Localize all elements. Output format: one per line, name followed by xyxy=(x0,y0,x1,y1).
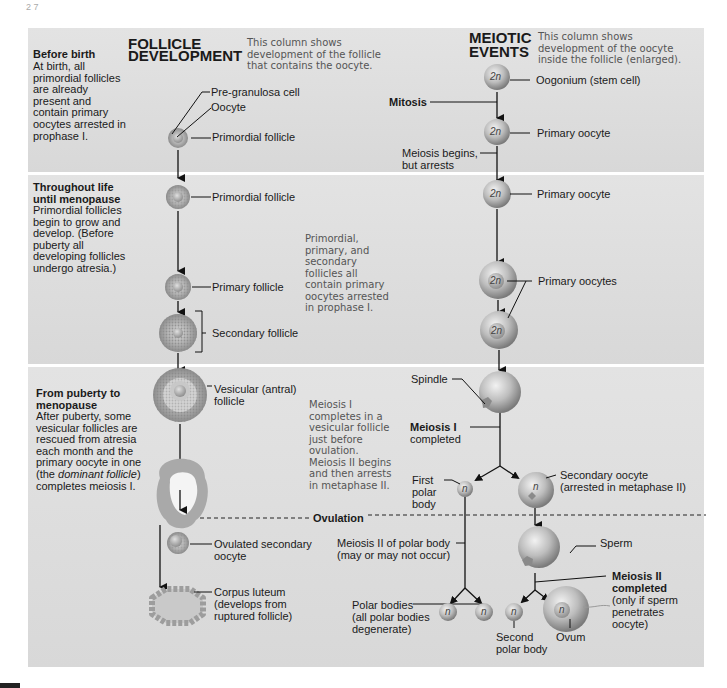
label-line: Second xyxy=(496,631,547,643)
stage3-heading-line: From puberty to xyxy=(36,388,120,400)
stage3-text: After puberty, some vesicular follicles … xyxy=(36,411,141,492)
label-first-polar-body: First polar body xyxy=(412,474,436,510)
stage3-note-line: in metaphase II. xyxy=(309,480,391,492)
stage3-note-line: and then arrests xyxy=(309,468,391,480)
label-primordial-follicle-2: Primordial follicle xyxy=(212,191,295,203)
follicle-column-note-1: This column shows xyxy=(247,37,342,49)
label-pre-granulosa-cell: Pre-granulosa cell xyxy=(211,86,300,98)
stage3-note-line: just before xyxy=(309,434,391,446)
label-line: penetrates xyxy=(612,606,678,618)
label-sperm: Sperm xyxy=(600,537,632,549)
stage2-note-line: in prophase I. xyxy=(305,302,389,314)
label-line: completed xyxy=(410,433,461,445)
ploidy-n-ovum: n xyxy=(559,604,565,616)
label-second-polar-body: Second polar body xyxy=(496,631,547,655)
stage3-text-line-italic: (the dominant follicle) xyxy=(36,469,141,481)
ploidy-2n-primary-4: 2n xyxy=(491,325,502,337)
follicle-column-note-3: that contains the oocyte. xyxy=(247,60,373,72)
label-polar-bodies: Polar bodies (all polar bodies degenerat… xyxy=(352,599,430,635)
italic-suffix: ) xyxy=(137,468,141,480)
label-mitosis: Mitosis xyxy=(389,96,427,108)
ploidy-2n-oogonium: 2n xyxy=(490,71,501,83)
stage3-note-line: completes in a xyxy=(309,411,391,423)
stage2-note-line: secondary xyxy=(305,256,389,268)
label-line: completed xyxy=(612,582,678,594)
label-line: oocyte xyxy=(214,550,312,562)
page-edge-tab xyxy=(0,683,20,688)
ploidy-n-first-polar: n xyxy=(462,483,468,495)
stage1-text-line: At birth, all xyxy=(33,61,126,73)
stage2-heading: Throughout life until menopause xyxy=(33,182,120,205)
stage2-text-line: undergo atresia.) xyxy=(33,263,125,275)
italic-prefix: (the xyxy=(36,468,58,480)
label-line: (only if sperm xyxy=(612,594,678,606)
label-meiosis-i-completed: Meiosis I completed xyxy=(410,421,461,445)
label-secondary-follicle: Secondary follicle xyxy=(212,327,298,339)
meiotic-column-note-1: This column shows xyxy=(538,31,633,43)
stage1-heading: Before birth xyxy=(33,49,95,61)
label-line: Ovulated secondary xyxy=(214,538,312,550)
page-number: 2 7 xyxy=(26,1,39,13)
label-line: Meiosis II xyxy=(612,570,678,582)
follicle-development-title-line2: DEVELOPMENT xyxy=(128,48,242,63)
label-spindle: Spindle xyxy=(411,373,448,385)
stage1-text: At birth, all primordial follicles are a… xyxy=(33,61,126,142)
label-corpus-luteum: Corpus luteum (develops from ruptured fo… xyxy=(214,586,292,622)
stage2-text: Primordial follicles begin to grow and d… xyxy=(33,205,125,275)
follicle-column-note-2: development of the follicle xyxy=(247,49,381,61)
label-oocyte: Oocyte xyxy=(211,101,246,113)
ploidy-2n-primary-3: 2n xyxy=(490,275,501,287)
label-oogonium: Oogonium (stem cell) xyxy=(536,74,641,86)
stage1-text-line: prophase I. xyxy=(33,131,126,143)
stage2-note-line: contain primary xyxy=(305,279,389,291)
label-line: but arrests xyxy=(402,159,478,171)
label-primary-oocytes: Primary oocytes xyxy=(538,275,617,287)
stage2-note: Primordial, primary, and secondary folli… xyxy=(305,233,389,314)
stage3-text-line: completes meiosis I. xyxy=(36,481,141,493)
meiotic-column-note-2: development of the oocyte xyxy=(538,43,673,55)
label-line: (may or may not occur) xyxy=(337,549,450,561)
stage3-heading: From puberty to menopause xyxy=(36,388,120,411)
label-primordial-follicle-1: Primordial follicle xyxy=(212,131,295,143)
stage3-note-line: vesicular follicle xyxy=(309,422,391,434)
label-ovulated-secondary-oocyte: Ovulated secondary oocyte xyxy=(214,538,312,562)
label-line: Corpus luteum xyxy=(214,586,292,598)
ploidy-2n-primary-1: 2n xyxy=(490,126,501,138)
label-vesicular-follicle: Vesicular (antral) follicle xyxy=(214,383,297,407)
stage3-note-line: Meiosis I xyxy=(309,399,391,411)
label-line: (develops from xyxy=(214,598,292,610)
stage2-text-line: Primordial follicles xyxy=(33,205,125,217)
meiotic-column-note-3: inside the follicle (enlarged). xyxy=(538,54,681,66)
stage2-note-line: oocytes arrested xyxy=(305,291,389,303)
meiotic-events-title-line2: EVENTS xyxy=(469,44,529,59)
stage3-text-line: After puberty, some xyxy=(36,411,141,423)
label-line: polar body xyxy=(496,643,547,655)
dominant-follicle-term: dominant follicle xyxy=(58,468,137,480)
label-meiosis-begins: Meiosis begins, but arrests xyxy=(402,147,478,171)
stage2-note-line: follicles all xyxy=(305,268,389,280)
label-line: degenerate) xyxy=(352,623,430,635)
label-ovum: Ovum xyxy=(556,631,585,643)
label-line: Meiosis I xyxy=(410,421,461,433)
label-meiosis-ii-completed: Meiosis II completed (only if sperm pene… xyxy=(612,570,678,630)
label-line: Secondary oocyte xyxy=(560,469,686,481)
label-line: body xyxy=(412,498,436,510)
label-meiosis-ii-polar-body: Meiosis II of polar body (may or may not… xyxy=(337,537,450,561)
stage3-note-line: Meiosis II begins xyxy=(309,457,391,469)
stage2-heading-line: Throughout life xyxy=(33,182,120,194)
label-line: (all polar bodies xyxy=(352,611,430,623)
label-line: Vesicular (antral) xyxy=(214,383,297,395)
label-secondary-oocyte: Secondary oocyte (arrested in metaphase … xyxy=(560,469,686,493)
stage2-note-line: primary, and xyxy=(305,245,389,257)
ploidy-n-polar-1: n xyxy=(445,606,451,618)
ploidy-2n-primary-2: 2n xyxy=(490,188,501,200)
label-primary-follicle: Primary follicle xyxy=(212,281,284,293)
label-primary-oocyte-2: Primary oocyte xyxy=(537,188,610,200)
stage3-note-line: ovulation. xyxy=(309,445,391,457)
label-line: Meiosis begins, xyxy=(402,147,478,159)
ploidy-n-secondary-oocyte: n xyxy=(533,481,539,493)
label-line: Meiosis II of polar body xyxy=(337,537,450,549)
follicle-column-drawing xyxy=(152,92,212,623)
label-line: First xyxy=(412,474,436,486)
label-line: ruptured follicle) xyxy=(214,610,292,622)
